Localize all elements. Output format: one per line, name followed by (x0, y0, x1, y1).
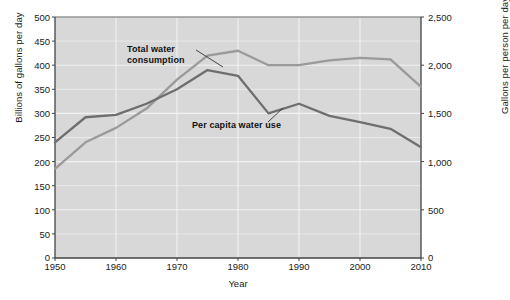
annotation-percapita-line1: Per capita water use (192, 120, 281, 131)
plot-area (0, 0, 510, 300)
annotation-total-line1: Total water (127, 44, 185, 55)
annotation-total-line2: consumption (127, 55, 185, 66)
annotation-per-capita-water-use: Per capita water use (192, 120, 281, 131)
chart-figure: Billions of gallons per day Gallons per … (0, 0, 510, 300)
annotation-total-water-consumption: Total water consumption (127, 44, 185, 67)
